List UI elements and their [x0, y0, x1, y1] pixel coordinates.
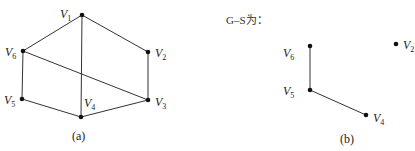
graph-a-vertex-v4 — [79, 115, 84, 120]
graph-a-vertex-label-v3: V3 — [155, 95, 166, 111]
graph-a-vertices: V1V2V3V4V5V6 — [4, 7, 166, 119]
graph-a-vertex-label-v2: V2 — [155, 46, 166, 62]
graph-a-vertex-label-v6: V6 — [5, 45, 16, 61]
graph-a-vertex-v5 — [20, 97, 25, 102]
graph-a-vertex-v3 — [146, 98, 151, 103]
graph-a-edge-v1-v6 — [23, 15, 82, 51]
graph-a-vertex-label-v1: V1 — [60, 7, 71, 23]
graph-b-caption: (b) — [340, 132, 354, 146]
graph-a-edge-v1-v4 — [81, 15, 82, 117]
graph-b-vertex-label-v6: V6 — [283, 46, 294, 62]
graph-b-title: G–S为： — [226, 14, 268, 26]
graph-a-edge-v6-v5 — [22, 51, 23, 99]
graph-a-caption: (a) — [72, 129, 85, 143]
graph-a-vertex-v2 — [146, 50, 151, 55]
graph-b-edge-v5-v4 — [310, 90, 366, 115]
graph-b-edges — [310, 46, 366, 115]
graph-a-vertex-v6 — [21, 49, 26, 54]
graph-b-vertex-v4 — [364, 113, 369, 118]
graph-b-vertices: V6V5V4V2 — [283, 38, 414, 127]
graph-a-vertex-label-v5: V5 — [4, 93, 15, 109]
graph-b-vertex-v2 — [394, 42, 399, 47]
graph-b-vertex-label-v5: V5 — [283, 84, 294, 100]
graph-figure: V1V2V3V4V5V6 (a) G–S为： V6V5V4V2 (b) — [0, 0, 415, 151]
graph-a-edge-v5-v4 — [22, 99, 81, 117]
graph-b-vertex-label-v2: V2 — [403, 38, 414, 54]
graph-b-vertex-label-v4: V4 — [373, 111, 384, 127]
graph-a-vertex-label-v4: V4 — [84, 96, 95, 112]
graph-b-vertex-v5 — [308, 88, 313, 93]
graph-b-vertex-v6 — [308, 44, 313, 49]
graph-a-edge-v6-v3 — [23, 51, 148, 100]
graph-a-vertex-v1 — [80, 13, 85, 18]
graph-a-edge-v1-v2 — [82, 15, 148, 52]
